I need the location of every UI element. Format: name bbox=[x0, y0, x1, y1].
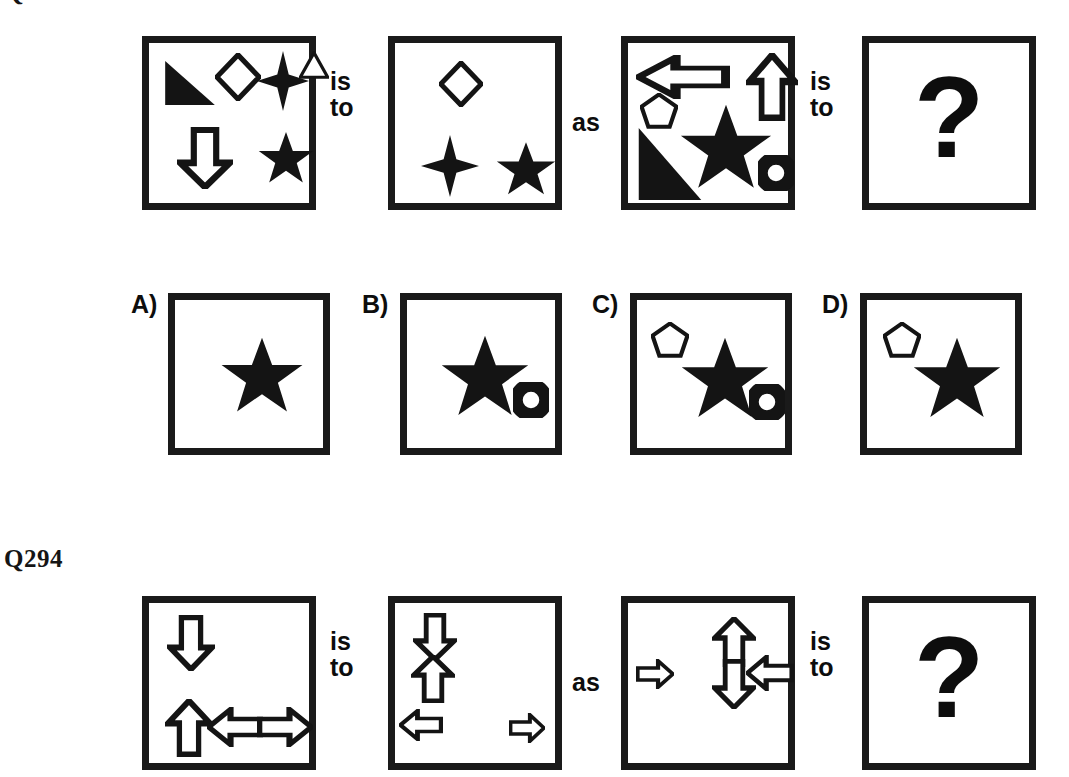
option-d-label: D) bbox=[822, 290, 848, 319]
left-arrow-shape bbox=[746, 655, 794, 691]
connector-line: to bbox=[810, 94, 834, 120]
circle-shape bbox=[758, 155, 794, 191]
panel-content bbox=[867, 300, 1015, 448]
connector-line: to bbox=[810, 654, 834, 680]
q294-panel-b[interactable] bbox=[388, 596, 562, 770]
worksheet-page: Q?istoasistoA)B)C)D)Q294?istoasisto bbox=[0, 0, 1069, 777]
panel-content: ? bbox=[869, 603, 1029, 763]
four-point-star-shape bbox=[421, 135, 479, 197]
right-triangle-shape bbox=[163, 59, 217, 107]
diamond-shape bbox=[439, 61, 483, 107]
panel-content bbox=[149, 43, 309, 203]
question-label-q2: Q294 bbox=[4, 545, 63, 573]
connector-phrase: isto bbox=[330, 68, 354, 121]
panel-content bbox=[175, 300, 323, 448]
connector-phrase: isto bbox=[330, 628, 354, 681]
five-point-star-shape bbox=[911, 336, 1003, 424]
panel-content bbox=[637, 300, 785, 448]
panel-content bbox=[407, 300, 555, 448]
right-arrow-shape bbox=[509, 713, 545, 743]
connector-line: is bbox=[330, 68, 354, 94]
panel-content: ? bbox=[869, 43, 1029, 203]
option-c-label: C) bbox=[592, 290, 618, 319]
connector-line: is bbox=[330, 628, 354, 654]
connector-line: is bbox=[810, 68, 834, 94]
connector-line: is bbox=[810, 628, 834, 654]
q293-panel-answer[interactable]: ? bbox=[862, 36, 1036, 210]
q293-option-a[interactable] bbox=[168, 293, 330, 455]
right-arrow-shape bbox=[257, 707, 313, 747]
down-arrow-shape bbox=[413, 613, 457, 661]
question-label-q1: Q bbox=[4, 0, 24, 6]
q294-panel-a[interactable] bbox=[142, 596, 316, 770]
connector-phrase: isto bbox=[810, 68, 834, 121]
left-arrow-shape bbox=[399, 709, 443, 741]
panel-content bbox=[395, 43, 555, 203]
up-arrow-shape bbox=[411, 655, 455, 703]
circle-shape bbox=[513, 382, 549, 418]
up-arrow-shape bbox=[165, 699, 213, 757]
pentagon-shape bbox=[640, 93, 678, 129]
question-mark: ? bbox=[914, 59, 984, 174]
question-mark: ? bbox=[914, 619, 984, 734]
q293-panel-b[interactable] bbox=[388, 36, 562, 210]
diamond-shape bbox=[215, 53, 261, 101]
down-arrow-shape bbox=[167, 615, 215, 671]
q293-panel-c[interactable] bbox=[621, 36, 795, 210]
five-point-star-shape bbox=[219, 336, 305, 418]
as-connector-q1: as bbox=[572, 108, 600, 137]
q293-option-c[interactable] bbox=[630, 293, 792, 455]
five-point-star-shape bbox=[257, 131, 315, 187]
q294-panel-answer[interactable]: ? bbox=[862, 596, 1036, 770]
option-a-label: A) bbox=[131, 290, 157, 319]
five-point-star-shape bbox=[495, 141, 557, 199]
connector-line: to bbox=[330, 654, 354, 680]
panel-content bbox=[149, 603, 309, 763]
triangle-shape bbox=[299, 51, 329, 79]
q293-option-d[interactable] bbox=[860, 293, 1022, 455]
left-arrow-shape bbox=[207, 707, 263, 747]
q293-option-b[interactable] bbox=[400, 293, 562, 455]
right-arrow-shape bbox=[636, 659, 674, 689]
connector-line: to bbox=[330, 94, 354, 120]
panel-content bbox=[395, 603, 555, 763]
panel-content bbox=[628, 603, 788, 763]
down-arrow-shape bbox=[177, 127, 233, 189]
panel-content bbox=[628, 43, 788, 203]
as-connector-q2: as bbox=[572, 668, 600, 697]
q293-panel-a[interactable] bbox=[142, 36, 316, 210]
circle-shape bbox=[749, 384, 785, 420]
option-b-label: B) bbox=[362, 290, 388, 319]
q294-panel-c[interactable] bbox=[621, 596, 795, 770]
connector-phrase: isto bbox=[810, 628, 834, 681]
